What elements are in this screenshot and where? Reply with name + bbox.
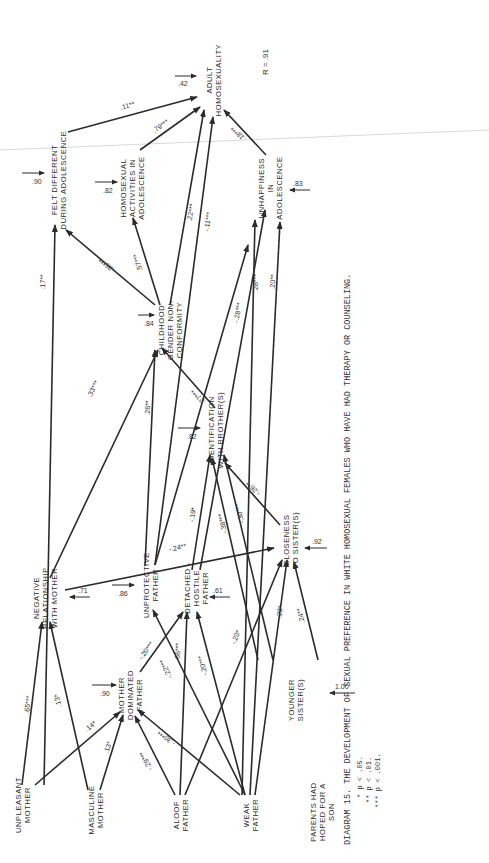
legend-line-1: * p < .05.: [356, 756, 364, 798]
node-label-line: MOTHER: [23, 787, 32, 823]
node-negative-relationship-mother: NEGATIVERELATIONSHIPWITH MOTHER: [32, 567, 59, 629]
path-arrow: [145, 350, 155, 566]
node-homosexual-activities: HOMOSEXUALACTIVITIES INADOLESCENCE: [119, 156, 146, 219]
path-coefficient: -.20*: [230, 629, 242, 646]
node-younger-sisters: YOUNGERSISTER(S): [287, 679, 305, 722]
node-label-line: ADOLESCENCE: [137, 156, 146, 219]
node-label-line: MASCULINE: [87, 785, 96, 834]
residual-value: .71: [78, 587, 88, 594]
path-coefficient: .28***: [252, 274, 259, 292]
svg-text:R = .91: R = .91: [261, 48, 270, 75]
node-label-line: PARENTS HAD: [309, 782, 318, 841]
node-label-line: DURING ADOLESCENCE: [59, 131, 68, 230]
node-closeness-sisters: CLOSENESSTO SISTER(S): [282, 512, 300, 569]
path-coefficient: .79***: [151, 118, 170, 134]
path-arrow: [224, 110, 266, 155]
legend-line-2: ** p < .01.: [365, 757, 373, 803]
node-unprotective-father: UNPROTECTIVEFATHER: [142, 552, 160, 618]
node-label-line: FATHER: [151, 569, 160, 602]
path-coefficient: .57***: [132, 253, 144, 272]
r-value: R = .91: [261, 48, 270, 75]
path-coefficient: .13*: [53, 693, 63, 707]
node-parents-hoped-son: PARENTS HADHOPED FOR ASON: [309, 782, 336, 841]
path-coefficient: .36***: [97, 256, 115, 273]
path-arrow: [180, 612, 187, 795]
residual-value: .86: [118, 590, 128, 597]
node-label-line: IDENTIFICATION: [207, 396, 216, 463]
node-label-line: WITH MOTHER: [50, 568, 59, 628]
node-label-line: FATHER: [135, 679, 144, 712]
residual-value: .92: [312, 538, 322, 545]
node-adult-homosexuality: ADULTHOMOSEXUALITY: [205, 44, 223, 116]
node-label-line: FATHER: [251, 799, 260, 832]
significance-legend: * p < .05. ** p < .01. *** p < .001.: [356, 753, 382, 808]
figure-caption: DIAGRAM 15. THE DEVELOPMENT OF SEXUAL PR…: [343, 274, 353, 845]
path-coefficient: -.28***: [232, 302, 243, 323]
path-coefficient: -.20***: [197, 655, 209, 677]
node-label-line: FATHER: [181, 799, 190, 832]
node-label-line: FATHER: [201, 572, 210, 605]
residual-value: .82: [187, 433, 197, 440]
residual-value: .83: [293, 180, 303, 187]
path-coefficient: -.11***: [203, 211, 213, 232]
path-coefficient: .14*: [83, 719, 97, 733]
path-arrow: [140, 107, 200, 150]
node-label-line: DETACHED -: [183, 562, 192, 613]
node-label-line: ADOLESCENCE: [275, 156, 284, 219]
path-coefficient: -.26**: [245, 480, 262, 498]
node-label-line: ADULT: [205, 66, 214, 93]
node-label-line: UNHAPPINESS: [257, 158, 266, 218]
path-coefficient: -.29***: [138, 750, 154, 771]
node-identification-brothers: IDENTIFICATIONWITH BROTHER(S): [207, 392, 225, 469]
node-label-line: MOTHER: [117, 677, 126, 713]
path-coefficient: .26**: [144, 400, 152, 416]
path-arrow: [200, 210, 265, 570]
node-label-line: HOMOSEXUAL: [119, 159, 128, 218]
residual-value: .90: [32, 178, 42, 185]
residual-value: .90: [100, 690, 110, 697]
node-weak-father: WEAKFATHER: [242, 799, 260, 832]
node-label-line: CLOSENESS: [282, 514, 291, 565]
node-label-line: UNPLEASANT: [14, 777, 23, 833]
node-label-line: GENDER NON-: [166, 300, 175, 360]
node-label-line: SON: [327, 803, 336, 821]
node-label-line: TO SISTER(S): [291, 512, 300, 569]
node-label-line: FELT DIFFERENT: [50, 145, 59, 215]
path-arrow: [65, 548, 274, 590]
node-label-line: WITH BROTHER(S): [216, 392, 225, 469]
node-label-line: NEGATIVE: [32, 577, 41, 619]
path-coefficient: -.24**: [168, 542, 187, 552]
node-unhappiness: UNHAPPINESSINADOLESCENCE: [257, 156, 284, 219]
path-coefficient: .18***: [229, 125, 247, 143]
node-childhood-gnc: CHILDHOODGENDER NON-CONFORMITY: [157, 300, 184, 360]
node-label-line: ALOOF: [172, 801, 181, 829]
node-label-line: RELATIONSHIP: [41, 567, 50, 629]
residual-value: .42: [178, 80, 188, 87]
node-masculine-mother: MASCULINEMOTHER: [87, 785, 105, 834]
node-detached-hostile-father: DETACHED -HOSTILEFATHER: [183, 562, 210, 613]
node-label-line: YOUNGER: [287, 679, 296, 721]
path-coefficient: .17**: [39, 274, 46, 290]
path-coefficient: .24**: [295, 607, 305, 624]
path-coefficient: .20**: [269, 274, 277, 290]
residual-value: .84: [144, 320, 154, 327]
path-arrow: [250, 222, 280, 795]
legend-line-3: *** p < .001.: [374, 753, 382, 808]
path-coefficient: .33***: [86, 379, 100, 398]
svg-text:DIAGRAM 15. THE DEVELOPMENT O: DIAGRAM 15. THE DEVELOPMENT OF SEXUAL PR…: [343, 274, 353, 845]
path-coefficient: .11**: [119, 100, 135, 111]
node-unpleasant-mother: UNPLEASANTMOTHER: [14, 777, 32, 833]
node-label-line: HOSTILE: [192, 570, 201, 606]
nodes-layer: UNPLEASANTMOTHERMASCULINEMOTHERALOOFFATH…: [14, 44, 337, 842]
residual-value: .61: [213, 587, 223, 594]
path-coefficient: -.19*: [188, 507, 197, 523]
node-label-line: MOTHER: [96, 792, 105, 828]
node-aloof-father: ALOOFFATHER: [172, 799, 190, 832]
node-label-line: DOMINATED: [126, 670, 135, 720]
residual-value: .82: [103, 187, 113, 194]
path-arrow: [242, 220, 255, 795]
node-label-line: ACTIVITIES IN: [128, 159, 137, 217]
node-felt-different: FELT DIFFERENTDURING ADOLESCENCE: [50, 131, 68, 230]
node-label-line: CHILDHOOD: [157, 305, 166, 355]
node-label-line: HOPED FOR A: [318, 783, 327, 841]
